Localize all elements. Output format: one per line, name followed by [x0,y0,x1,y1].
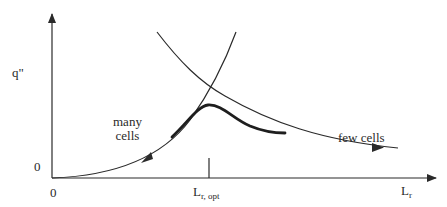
x-axis-label: Lr [401,184,412,202]
optimum-label: Lr, opt [193,185,220,203]
x-origin-label: 0 [50,186,57,200]
many-cells-arrow-icon [141,152,153,163]
y-origin-label: 0 [34,160,41,174]
many-cells-label: many cells [113,115,142,143]
few-cells-label: few cells [338,131,385,145]
diagram-canvas [0,0,447,207]
y-axis-label: q" [12,66,24,80]
optimum-curve [172,105,285,137]
